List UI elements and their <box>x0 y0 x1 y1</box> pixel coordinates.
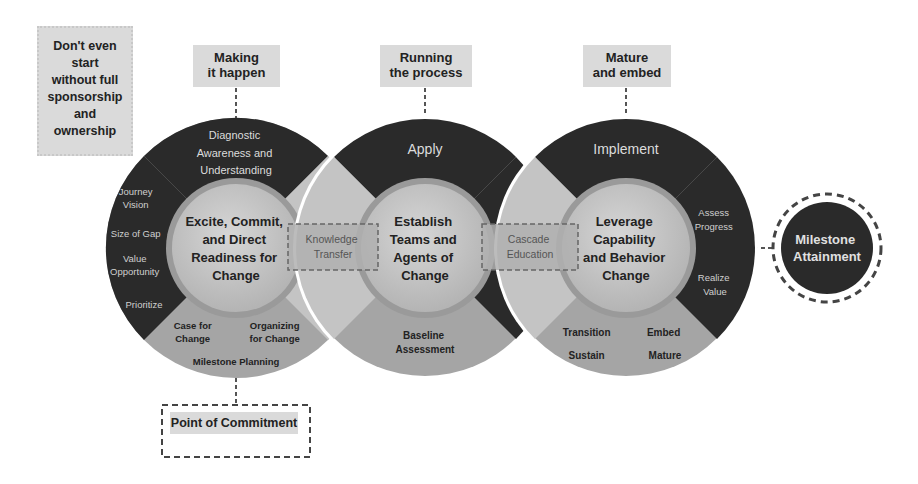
circle2-top-text: Apply <box>407 141 442 157</box>
note-line: Don't even <box>39 38 131 55</box>
note-line: start <box>39 55 131 72</box>
sponsorship-note: Don't even start without full sponsorshi… <box>37 26 133 156</box>
note-line: ownership <box>39 123 131 140</box>
connector-cascade-education <box>482 224 578 270</box>
point-of-commitment: Point of Commitment <box>170 412 298 434</box>
note-line: and <box>39 106 131 123</box>
connector-knowledge-transfer <box>288 224 378 270</box>
phase-label-line: Running <box>380 50 472 65</box>
circle3-top-text: Implement <box>593 141 658 157</box>
phase-label-running-the-process: Running the process <box>380 45 472 87</box>
phase-label-mature-and-embed: Mature and embed <box>583 45 671 87</box>
note-line: sponsorship <box>39 89 131 106</box>
phase-label-line: it happen <box>193 65 280 80</box>
phase-label-line: Mature <box>583 50 671 65</box>
note-line: without full <box>39 72 131 89</box>
milestone-attainment <box>773 194 881 302</box>
phase-label-making-it-happen: Making it happen <box>193 45 280 87</box>
phase-label-line: Making <box>193 50 280 65</box>
phase-label-line: the process <box>380 65 472 80</box>
phase-label-line: and embed <box>583 65 671 80</box>
